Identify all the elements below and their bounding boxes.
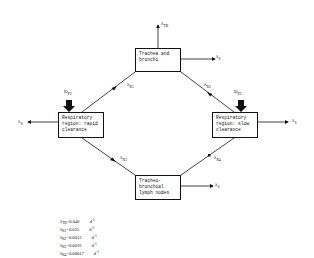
legend-row-r1: λR1=0.025d-1 xyxy=(60,226,99,234)
line-rapid-to-trachea xyxy=(82,72,135,112)
lymph-line3: lymph nodes xyxy=(139,190,177,196)
label-lambda-s-slow: λS xyxy=(292,118,297,125)
deposition-arrow-rapid xyxy=(63,100,75,112)
line-lymph-to-slow xyxy=(181,138,234,175)
lymph-nodes-box: Tracheo- bronchial lymph nodes xyxy=(135,175,181,200)
label-lambda-s-trachea: λS xyxy=(216,54,221,61)
arrowhead-r4 xyxy=(208,154,211,157)
arrowhead-r2 xyxy=(207,92,213,97)
legend-row-r3: λR3=0.0016d-1 xyxy=(60,242,99,250)
line-slow-to-trachea xyxy=(181,72,234,112)
rapid-line3: clearance xyxy=(62,127,100,133)
line-rapid-to-lymph xyxy=(82,138,135,175)
arrowhead-r1 xyxy=(112,86,118,91)
label-lambda-r3: λR3 xyxy=(120,155,127,162)
trachea-bronchi-box: Trachea and bronchi xyxy=(135,48,181,72)
label-lambda-r4: λR4 xyxy=(214,155,221,162)
label-lambda-s-rapid: λS xyxy=(18,119,23,126)
slow-clearance-box: Respiratory region: slow clearance xyxy=(212,112,258,138)
label-lambda-tb: λTB xyxy=(161,21,168,28)
rapid-clearance-box: Respiratory region: rapid clearance xyxy=(58,112,104,138)
trachea-line2: bronchi xyxy=(139,57,177,63)
label-lambda-r1: λR1 xyxy=(127,82,134,89)
legend-row-r4: λR4=0.00017d-1 xyxy=(60,250,99,258)
legend-row-r2: λR2=0.0012d-1 xyxy=(60,234,99,242)
label-lambda-r2: λR2 xyxy=(204,82,211,89)
deposition-arrow-slow xyxy=(235,100,247,112)
label-dp2-slow: DP2 xyxy=(234,89,242,96)
slow-line3: clearance xyxy=(216,127,254,133)
legend-row-tb: λTB=0.046d-1 xyxy=(60,218,99,226)
label-dp2-rapid: DP2 xyxy=(64,89,72,96)
rate-constants-legend: λTB=0.046d-1 λR1=0.025d-1 λR2=0.0012d-1 … xyxy=(60,218,99,258)
label-lambda-s-lymph: λS xyxy=(215,182,220,189)
